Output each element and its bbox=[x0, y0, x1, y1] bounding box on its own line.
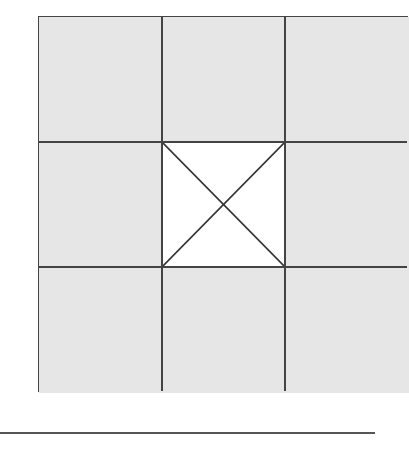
cell-r1c2 bbox=[162, 17, 285, 142]
grid-3x3 bbox=[38, 16, 408, 392]
grid-line-v1 bbox=[161, 17, 163, 391]
cell-r2c1 bbox=[39, 142, 162, 267]
grid-line-h1 bbox=[39, 141, 407, 143]
x-cross-icon bbox=[162, 142, 285, 267]
cell-r1c3 bbox=[285, 17, 409, 142]
cell-r3c2 bbox=[162, 267, 285, 393]
cell-r2c3 bbox=[285, 142, 409, 267]
grid-line-v2 bbox=[284, 17, 286, 391]
cell-r1c1 bbox=[39, 17, 162, 142]
cell-r3c1 bbox=[39, 267, 162, 393]
cell-r3c3 bbox=[285, 267, 409, 393]
grid-line-h2 bbox=[39, 266, 407, 268]
horizontal-divider bbox=[0, 432, 375, 434]
cell-r2c2-center bbox=[162, 142, 285, 267]
